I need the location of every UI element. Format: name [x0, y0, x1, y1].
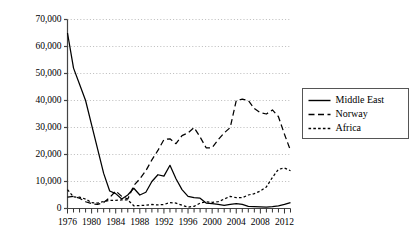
x-tick-label: 1980 — [82, 217, 101, 227]
line-chart: 010,00020,00030,00040,00050,00060,00070,… — [0, 0, 417, 237]
y-axis-tick-labels: 010,00020,00030,00040,00050,00060,00070,… — [35, 14, 67, 213]
x-tick-label: 1996 — [179, 217, 198, 227]
series-line-norway — [68, 99, 291, 204]
y-tick-label: 50,000 — [35, 68, 61, 78]
x-tick-label: 1988 — [130, 217, 149, 227]
x-tick-label: 1976 — [58, 217, 77, 227]
x-axis-tick-labels: 1976198019841988199219962000200420082012 — [58, 217, 294, 227]
x-tick-label: 2012 — [275, 217, 294, 227]
plot-axes — [68, 20, 291, 209]
x-tick-label: 2008 — [251, 217, 270, 227]
x-tick-label: 2000 — [203, 217, 222, 227]
legend-label-norway[interactable]: Norway — [336, 108, 368, 119]
y-tick-label: 10,000 — [35, 176, 61, 186]
y-tick-label: 40,000 — [35, 95, 61, 105]
data-series-group — [68, 33, 291, 207]
x-axis-ticks — [68, 209, 291, 214]
y-tick-label: 60,000 — [35, 41, 61, 51]
x-tick-label: 1984 — [106, 217, 125, 227]
chart-figure: 010,00020,00030,00040,00050,00060,00070,… — [0, 0, 417, 237]
series-line-africa — [68, 168, 291, 207]
x-tick-label: 2004 — [227, 217, 246, 227]
y-tick-label: 30,000 — [35, 122, 61, 132]
series-line-middle-east — [68, 33, 291, 207]
legend-label-africa[interactable]: Africa — [336, 122, 362, 133]
legend-label-middle-east[interactable]: Middle East — [336, 94, 385, 105]
y-tick-label: 0 — [57, 203, 62, 213]
legend: Middle EastNorwayAfrica — [303, 89, 409, 139]
gridlines — [68, 20, 291, 182]
y-tick-label: 70,000 — [35, 14, 61, 24]
y-tick-label: 20,000 — [35, 149, 61, 159]
x-tick-label: 1992 — [154, 217, 173, 227]
